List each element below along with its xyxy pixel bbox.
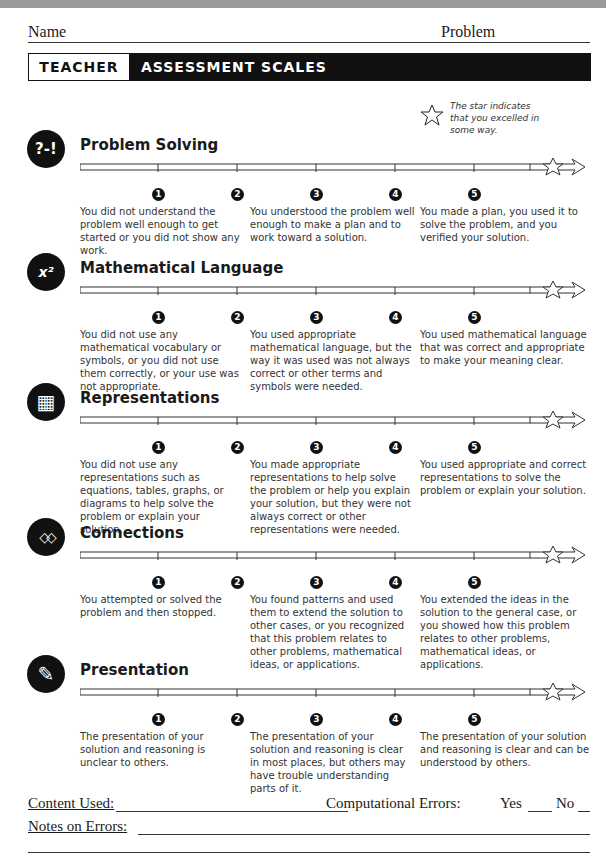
- math-language-icon: x²: [27, 253, 65, 291]
- rating-scale[interactable]: [80, 281, 590, 305]
- footer-row-content: Content Used: Computational Errors: Yes …: [28, 795, 590, 812]
- rating-2: 2: [231, 188, 244, 201]
- representations-icon: ▦: [27, 383, 65, 421]
- problem-label: Problem: [441, 23, 495, 41]
- page-title: ASSESSMENT SCALES: [141, 54, 327, 80]
- rating-5: 5: [468, 576, 481, 589]
- description-mid: You found patterns and used them to exte…: [250, 593, 415, 671]
- rating-1: 1: [152, 188, 165, 201]
- description-high: You used appropriate and correct represe…: [420, 458, 595, 497]
- star-icon: [420, 104, 444, 126]
- problem-solving-icon: ?-!: [27, 130, 65, 168]
- top-border: [0, 0, 606, 8]
- description-high: The presentation of your solution and re…: [420, 730, 595, 769]
- rating-5: 5: [468, 713, 481, 726]
- rating-1: 1: [152, 441, 165, 454]
- section-title: Mathematical Language: [80, 259, 283, 277]
- rating-4: 4: [389, 311, 402, 324]
- rating-4: 4: [389, 188, 402, 201]
- rating-5: 5: [468, 188, 481, 201]
- rating-2: 2: [231, 576, 244, 589]
- description-high: You used mathematical language that was …: [420, 328, 595, 367]
- section-title: Presentation: [80, 661, 189, 679]
- connections-icon: ◇◇: [27, 518, 65, 556]
- description-high: You extended the ideas in the solution t…: [420, 593, 595, 671]
- description-low: You did not use any mathematical vocabul…: [80, 328, 240, 393]
- rating-4: 4: [389, 576, 402, 589]
- description-mid: You used appropriate mathematical langua…: [250, 328, 415, 393]
- rating-1: 1: [152, 576, 165, 589]
- rating-scale[interactable]: [80, 158, 590, 182]
- rating-4: 4: [389, 713, 402, 726]
- yes-blank[interactable]: [528, 811, 552, 812]
- footer-row-notes: Notes on Errors:: [28, 818, 590, 835]
- description-low: You attempted or solved the problem and …: [80, 593, 240, 619]
- rating-scale[interactable]: [80, 683, 590, 707]
- section-title: Representations: [80, 389, 219, 407]
- yes-label: Yes: [500, 795, 522, 812]
- rating-3: 3: [310, 441, 323, 454]
- rating-numbers: 1 2 3 4 5: [0, 576, 606, 592]
- rating-1: 1: [152, 713, 165, 726]
- notes-line-1[interactable]: [138, 834, 590, 835]
- rating-numbers: 1 2 3 4 5: [0, 441, 606, 457]
- computational-errors-label: Computational Errors:: [326, 795, 461, 812]
- description-low: The presentation of your solution and re…: [80, 730, 240, 769]
- title-banner: TEACHER ASSESSMENT SCALES: [28, 53, 591, 81]
- rating-3: 3: [310, 188, 323, 201]
- rating-3: 3: [310, 713, 323, 726]
- rating-numbers: 1 2 3 4 5: [0, 713, 606, 729]
- rating-scale[interactable]: [80, 546, 590, 570]
- no-blank[interactable]: [578, 811, 590, 812]
- description-low: You did not understand the problem well …: [80, 205, 240, 257]
- rating-3: 3: [310, 576, 323, 589]
- notes-on-errors-label: Notes on Errors:: [28, 818, 127, 834]
- rating-2: 2: [231, 311, 244, 324]
- rating-5: 5: [468, 441, 481, 454]
- rating-numbers: 1 2 3 4 5: [0, 311, 606, 327]
- no-label: No: [556, 795, 574, 812]
- name-problem-row: Name Problem: [28, 20, 590, 43]
- rating-2: 2: [231, 713, 244, 726]
- description-mid: You made appropriate representations to …: [250, 458, 415, 536]
- star-note-text: The star indicates that you excelled in …: [450, 100, 550, 136]
- content-used-line[interactable]: [116, 811, 348, 812]
- presentation-icon: ✎: [27, 655, 65, 693]
- notes-line-2[interactable]: [28, 852, 590, 853]
- description-mid: The presentation of your solution and re…: [250, 730, 415, 795]
- content-used-label: Content Used:: [28, 795, 114, 811]
- rating-3: 3: [310, 311, 323, 324]
- name-label: Name: [28, 23, 66, 41]
- rating-4: 4: [389, 441, 402, 454]
- description-high: You made a plan, you used it to solve th…: [420, 205, 595, 244]
- rating-1: 1: [152, 311, 165, 324]
- rating-2: 2: [231, 441, 244, 454]
- description-mid: You understood the problem well enough t…: [250, 205, 415, 244]
- teacher-label: TEACHER: [29, 54, 129, 80]
- rating-5: 5: [468, 311, 481, 324]
- section-title: Problem Solving: [80, 136, 218, 154]
- section-title: Connections: [80, 524, 184, 542]
- rating-numbers: 1 2 3 4 5: [0, 188, 606, 204]
- rating-scale[interactable]: [80, 411, 590, 435]
